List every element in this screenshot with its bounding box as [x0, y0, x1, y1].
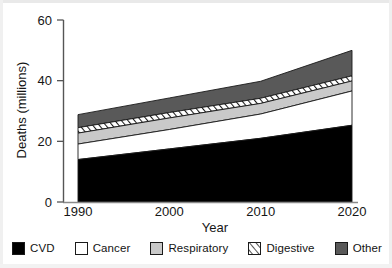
legend-item-cvd[interactable]: CVD — [12, 242, 55, 255]
y-tick-label-group: 0204060 — [38, 13, 52, 210]
y-tick-label-40: 40 — [38, 73, 52, 88]
y-tick-label-20: 20 — [38, 134, 52, 149]
legend-swatch-respiratory-icon — [150, 242, 163, 255]
legend-label-respiratory: Respiratory — [168, 242, 228, 254]
legend-swatch-other-icon — [335, 242, 348, 255]
legend-item-other[interactable]: Other — [335, 242, 382, 255]
legend-label-cancer: Cancer — [93, 242, 131, 254]
y-axis-title: Deaths (millions) — [14, 62, 29, 159]
y-tick-label-60: 60 — [38, 13, 52, 28]
legend-swatch-cancer-icon — [75, 242, 88, 255]
legend-label-other: Other — [353, 242, 382, 254]
legend-label-digestive: Digestive — [266, 242, 314, 254]
stacked-area-chart: 0204060 1990200020102020 Deaths (million… — [0, 0, 392, 236]
chart-legend: CVD Cancer Respiratory Digestive Other — [8, 236, 386, 260]
legend-swatch-digestive-icon — [248, 242, 261, 255]
x-tick-label-group: 1990200020102020 — [64, 204, 367, 219]
x-tick-label-2010: 2010 — [246, 204, 275, 219]
legend-label-cvd: CVD — [30, 242, 55, 254]
x-axis-title: Year — [202, 220, 229, 235]
legend-item-respiratory[interactable]: Respiratory — [150, 242, 228, 255]
y-tick-label-0: 0 — [45, 195, 52, 210]
legend-swatch-cvd-icon — [12, 242, 25, 255]
legend-item-cancer[interactable]: Cancer — [75, 242, 131, 255]
x-tick-label-2000: 2000 — [155, 204, 184, 219]
legend-item-digestive[interactable]: Digestive — [248, 242, 314, 255]
y-tick-group — [57, 20, 64, 202]
x-tick-label-2020: 2020 — [338, 204, 367, 219]
x-tick-label-1990: 1990 — [64, 204, 93, 219]
scan-edge-bottom — [0, 264, 392, 268]
figure-container: 0204060 1990200020102020 Deaths (million… — [0, 0, 392, 268]
